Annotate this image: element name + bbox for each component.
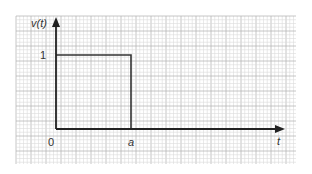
y-tick-label-1: 1 [40,49,46,61]
x-axis-label: t [277,135,281,147]
signal-pulse-line [56,55,131,129]
x-tick-label-a: a [128,136,134,148]
x-axis-arrow-icon [275,125,285,133]
x-tick-label-0: 0 [48,136,54,148]
signal-layer [56,55,131,129]
pulse-diagram: v(t) t 1 0 a [0,0,312,174]
y-axis-label: v(t) [31,17,47,29]
graph-paper-grid [16,16,296,164]
